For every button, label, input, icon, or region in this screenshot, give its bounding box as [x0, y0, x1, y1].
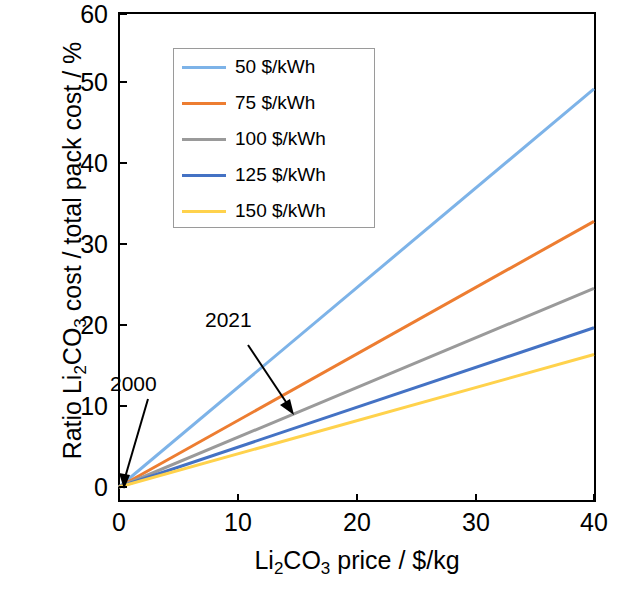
ytick-label-0: 0: [48, 473, 108, 502]
series-line-1: [119, 221, 594, 487]
legend-color-swatch: [182, 102, 226, 105]
legend-color-swatch: [182, 210, 226, 213]
xtick-label-0: 0: [89, 508, 149, 537]
series-line-3: [119, 328, 594, 487]
x-axis-title: Li2CO3 price / $/kg: [118, 546, 596, 575]
legend-item: 50 $/kWh: [174, 49, 374, 85]
legend-color-swatch: [182, 138, 226, 141]
legend-item-label: 125 $/kWh: [235, 164, 326, 186]
legend-item: 125 $/kWh: [174, 157, 374, 193]
legend-item: 100 $/kWh: [174, 121, 374, 157]
legend-item: 150 $/kWh: [174, 193, 374, 229]
legend-color-swatch: [182, 174, 226, 177]
legend: 50 $/kWh 75 $/kWh 100 $/kWh 125 $/kWh 15…: [173, 48, 375, 228]
xtick-label-2: 20: [327, 508, 387, 537]
y-axis-title-sub2: 3: [70, 318, 89, 327]
legend-color-swatch: [182, 66, 226, 69]
y-axis-title-pre: Ratio Li: [58, 375, 86, 460]
y-axis-title-mid: CO: [58, 328, 86, 366]
legend-item-label: 75 $/kWh: [235, 92, 315, 114]
annotation-2000: 2000: [110, 372, 157, 396]
legend-item-label: 100 $/kWh: [235, 128, 326, 150]
annotation-arrows: [119, 345, 294, 489]
xtick-label-4: 40: [564, 508, 619, 537]
chart-container: 0 10 20 30 40 0 10 20 30 40 50 60 Ratio …: [0, 0, 619, 593]
y-axis-title: Ratio Li2CO3 cost / total pack cost / %: [58, 36, 87, 466]
x-axis-title-mid: CO: [283, 546, 321, 574]
legend-item: 75 $/kWh: [174, 85, 374, 121]
series-line-2: [119, 288, 594, 487]
x-axis-title-sub2: 3: [321, 559, 330, 578]
xtick-label-3: 30: [446, 508, 506, 537]
annotation-2021: 2021: [205, 308, 252, 332]
legend-item-label: 150 $/kWh: [235, 200, 326, 222]
y-axis-title-sub1: 2: [70, 365, 89, 374]
y-axis-title-post: cost / total pack cost / %: [58, 42, 86, 319]
x-axis-title-sub1: 2: [274, 559, 283, 578]
x-axis-title-post: price / $/kg: [330, 546, 459, 574]
x-axis-title-pre: Li: [254, 546, 273, 574]
legend-item-label: 50 $/kWh: [235, 56, 315, 78]
series-line-4: [119, 355, 594, 487]
ytick-label-6: 60: [48, 0, 108, 29]
xtick-label-1: 10: [208, 508, 268, 537]
